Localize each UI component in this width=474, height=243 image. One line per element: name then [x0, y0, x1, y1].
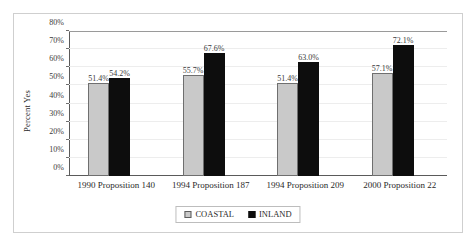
y-tick-label: 50% [49, 72, 64, 81]
bar-group: 55.7%67.6% [164, 31, 259, 176]
bar-coastal[interactable]: 55.7% [183, 75, 204, 176]
legend-swatch-icon [184, 211, 191, 218]
legend-swatch-icon [248, 211, 255, 218]
legend-label: INLAND [259, 209, 292, 219]
y-tick-label: 80% [49, 18, 64, 27]
bar-group: 57.1%72.1% [353, 31, 448, 176]
y-tick-label: 70% [49, 36, 64, 45]
bar-inland[interactable]: 72.1% [393, 45, 414, 176]
category-label: 1994 Proposition 187 [164, 180, 259, 190]
legend-label: COASTAL [195, 209, 234, 219]
y-tick-label: 60% [49, 54, 64, 63]
bar-coastal[interactable]: 57.1% [372, 73, 393, 176]
x-axis-categories: 1990 Proposition 1401994 Proposition 187… [69, 180, 447, 196]
bar-value-label: 57.1% [372, 64, 393, 73]
plot-area: 0%10%20%30%40%50%60%70%80% 51.4%54.2%55.… [69, 31, 447, 176]
bar-value-label: 54.2% [109, 69, 130, 78]
bar-group: 51.4%63.0% [258, 31, 353, 176]
bar-value-label: 55.7% [183, 66, 204, 75]
chart-figure: Percent Yes 0%10%20%30%40%50%60%70%80% 5… [13, 13, 463, 233]
y-tick-label: 40% [49, 90, 64, 99]
bar-inland[interactable]: 54.2% [109, 78, 130, 176]
y-tick-label: 0% [53, 163, 64, 172]
category-label: 1990 Proposition 140 [69, 180, 164, 190]
bar-coastal[interactable]: 51.4% [88, 83, 109, 176]
category-label: 1994 Proposition 209 [258, 180, 353, 190]
bar-coastal[interactable]: 51.4% [277, 83, 298, 176]
chart-legend: COASTALINLAND [175, 206, 300, 223]
y-axis-title: Percent Yes [22, 66, 32, 156]
bar-value-label: 67.6% [204, 44, 225, 53]
y-tick-label: 10% [49, 144, 64, 153]
legend-item-inland[interactable]: INLAND [248, 209, 292, 219]
bar-inland[interactable]: 67.6% [204, 53, 225, 176]
bar-value-label: 63.0% [298, 53, 319, 62]
y-tick-label: 30% [49, 108, 64, 117]
bar-value-label: 72.1% [393, 36, 414, 45]
y-tick-label: 20% [49, 126, 64, 135]
category-label: 2000 Proposition 22 [353, 180, 448, 190]
bar-value-label: 51.4% [277, 74, 298, 83]
bars-layer: 51.4%54.2%55.7%67.6%51.4%63.0%57.1%72.1% [69, 31, 447, 176]
legend-item-coastal[interactable]: COASTAL [184, 209, 234, 219]
bar-inland[interactable]: 63.0% [298, 62, 319, 176]
bar-group: 51.4%54.2% [69, 31, 164, 176]
bar-value-label: 51.4% [88, 74, 109, 83]
